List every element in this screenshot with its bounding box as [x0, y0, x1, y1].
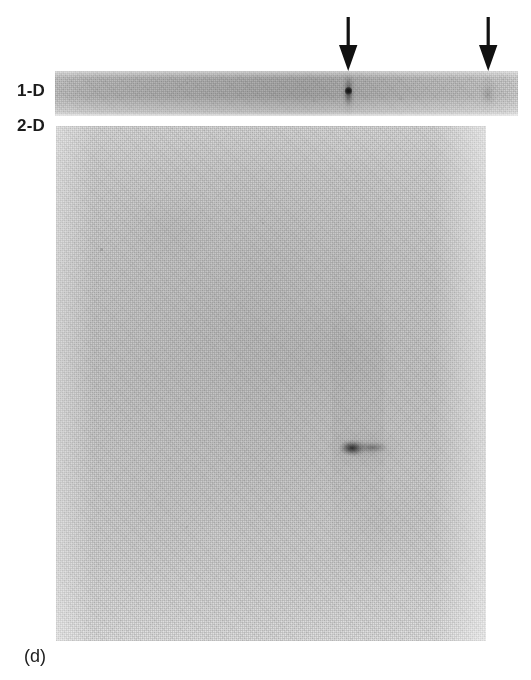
- artifact-speck: [313, 100, 315, 102]
- down-arrow-icon-right: [475, 16, 501, 72]
- background-blotch: [306, 456, 466, 586]
- down-arrow-icon-left: [335, 16, 361, 72]
- two-d-vertical-smear: [332, 126, 384, 641]
- artifact-speck: [356, 180, 358, 182]
- background-blotch: [76, 426, 246, 586]
- strip-grain-texture: [55, 71, 518, 116]
- two-dimensional-gel-panel: [56, 126, 486, 641]
- label-2d: 2-D: [17, 116, 45, 136]
- one-d-minor-band: [479, 75, 497, 113]
- strip-halftone-texture: [55, 71, 518, 116]
- figure-panel-d: 1-D 2-D (d): [0, 0, 531, 680]
- gel-halftone-texture: [56, 126, 486, 641]
- two-d-spot-halo: [328, 428, 418, 470]
- artifact-speck: [100, 248, 103, 251]
- panel-letter: (d): [24, 646, 46, 667]
- one-d-major-spot: [345, 87, 352, 95]
- label-1d: 1-D: [17, 81, 45, 101]
- one-dimensional-strip: [55, 71, 518, 116]
- artifact-speck: [186, 526, 188, 528]
- background-blotch: [96, 172, 246, 282]
- gel-grain-texture: [56, 126, 486, 641]
- one-d-major-band: [342, 71, 355, 116]
- artifact-speck: [186, 82, 188, 84]
- background-blotch: [236, 276, 426, 426]
- artifact-speck: [400, 98, 402, 100]
- two-d-resolved-spot: [338, 438, 372, 458]
- artifact-speck: [262, 222, 264, 224]
- two-d-spot-tail: [360, 440, 404, 455]
